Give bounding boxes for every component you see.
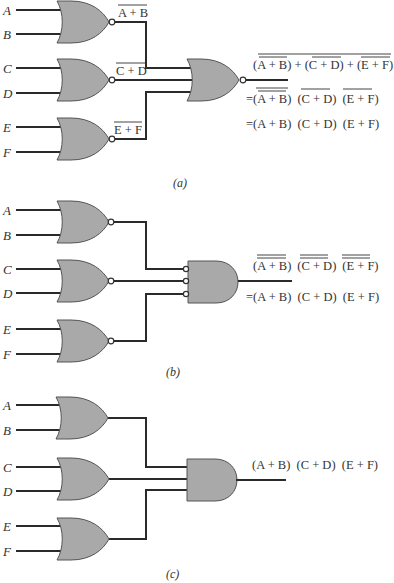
nor-gate-CD	[57, 260, 109, 302]
label-not-A-plus-B: A + B	[118, 6, 148, 20]
input-label-D: D	[2, 484, 13, 499]
nor-gate-AB	[57, 201, 109, 243]
input-label-A: A	[2, 3, 11, 18]
input-label-D: D	[2, 86, 13, 101]
wire-a-AB-to-output	[115, 22, 192, 68]
inversion-bubble	[108, 338, 114, 344]
input-label-F: F	[2, 544, 12, 559]
and-gate-output	[187, 459, 237, 501]
input-label-C: C	[3, 262, 12, 277]
svg-text:=(A + B)(C + D)(E + F): =(A + B)(C + D)(E + F)	[246, 92, 379, 106]
wire-b-AB-to-and	[114, 222, 183, 269]
output-expression-b-line1: (A + B)(C + D)(E + F)	[253, 255, 379, 273]
output-expression-b-line2: =(A + B) (C + D) (E + F)	[246, 290, 379, 304]
input-label-E: E	[2, 322, 11, 337]
input-label-D: D	[2, 286, 13, 301]
wire-b-EF-to-and	[114, 294, 183, 341]
or-gate-EF	[57, 518, 109, 560]
inversion-bubble	[240, 77, 246, 83]
input-label-C: C	[3, 460, 12, 475]
output-expression-a-line2: =(A + B)(C + D)(E + F)	[246, 88, 379, 106]
output-expression-a-line1: (A + B) + (C + D) + (E + F)	[253, 54, 393, 72]
output-expression-a-line3: =(A + B) (C + D) (E + F)	[246, 117, 379, 131]
inversion-bubble	[109, 19, 115, 25]
or-gate-AB	[56, 397, 108, 439]
input-label-E: E	[2, 120, 11, 135]
label-not-C-plus-D: C + D	[116, 64, 147, 78]
nor-gate-EF	[57, 118, 109, 160]
input-inversion-bubble	[183, 291, 188, 296]
input-inversion-bubble	[183, 278, 188, 283]
caption-a: (a)	[173, 176, 187, 190]
panel-c: A B C D E F (A + B) (C + D) (E + F) (c)	[2, 397, 378, 581]
inversion-bubble	[108, 219, 114, 225]
input-label-E: E	[2, 519, 11, 534]
inversion-bubble	[109, 136, 115, 142]
nor-gate-EF	[57, 320, 109, 362]
input-label-F: F	[2, 347, 12, 362]
wire-c-EF-to-and	[109, 490, 188, 539]
nor-gate-AB	[57, 1, 109, 43]
or-gate-CD	[57, 458, 109, 500]
inversion-bubble	[108, 278, 114, 284]
panel-a: A B C D E F A + B C + D E + F (A + B) + …	[2, 1, 393, 190]
nor-gate-output	[187, 59, 239, 101]
input-label-F: F	[2, 145, 12, 160]
wire-c-AB-to-and	[108, 418, 188, 467]
input-label-B: B	[3, 27, 11, 42]
label-not-E-plus-F: E + F	[114, 123, 142, 137]
svg-text:(A + B) + (C + D) + (E + F): (A + B) + (C + D) + (E + F)	[253, 58, 393, 72]
input-label-B: B	[3, 228, 11, 243]
logic-circuit-figure: A B C D E F A + B C + D E + F (A + B) + …	[0, 0, 394, 583]
input-label-C: C	[3, 61, 12, 76]
input-label-A: A	[2, 203, 11, 218]
panel-b: A B C D E F (A + B)(C + D)(E + F) =(A + …	[2, 201, 379, 379]
input-label-B: B	[3, 423, 11, 438]
caption-b: (b)	[166, 365, 180, 379]
caption-c: (c)	[166, 567, 179, 581]
and-gate-inverted-inputs	[188, 261, 238, 303]
output-expression-c: (A + B) (C + D) (E + F)	[252, 458, 378, 472]
inversion-bubble	[109, 77, 115, 83]
svg-text:(A + B)(C + D)(E + F): (A + B)(C + D)(E + F)	[253, 259, 379, 273]
input-label-A: A	[2, 398, 11, 413]
input-inversion-bubble	[183, 266, 188, 271]
nor-gate-CD	[57, 59, 109, 101]
